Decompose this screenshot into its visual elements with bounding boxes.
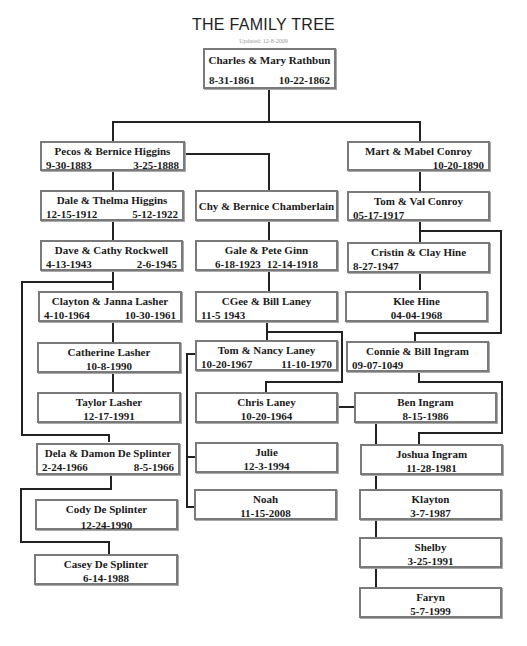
- person-box-chamberlain: Chy & Bernice Chamberlain: [195, 190, 338, 221]
- birth-date: 2-6-1945: [137, 257, 177, 271]
- person-name: Tom & Nancy Laney: [197, 343, 336, 357]
- connector: [21, 281, 114, 283]
- birth-date: 10-20-1967: [201, 357, 252, 371]
- connector: [108, 434, 110, 442]
- person-box-faryn: Faryn 5-7-1999: [359, 587, 502, 618]
- connector: [265, 381, 343, 383]
- connector: [419, 272, 421, 290]
- birth-date: 12-3-1994: [244, 459, 290, 473]
- birth-date: 05-17-1917: [353, 208, 404, 222]
- person-name: Chris Laney: [197, 395, 336, 409]
- person-box-rathbun: Charles & Mary Rathbun 8-31-1861 10-22-1…: [203, 48, 336, 89]
- birth-date: 6-14-1988: [83, 571, 129, 585]
- birth-date: 5-7-1999: [410, 604, 450, 618]
- person-name: Noah: [196, 492, 335, 506]
- connector: [21, 434, 110, 436]
- connector: [112, 121, 421, 123]
- birth-date: 8-5-1966: [134, 460, 174, 474]
- person-box-desplinter-casey: Casey De Splinter 6-14-1988: [34, 554, 178, 585]
- birth-date: 8-27-1947: [353, 259, 399, 273]
- connector: [112, 320, 114, 342]
- connector: [414, 332, 502, 334]
- birth-date: 10-8-1990: [86, 359, 132, 373]
- connector: [419, 230, 502, 232]
- person-box-laney-cgee: CGee & Bill Laney 11-5 1943: [195, 291, 338, 322]
- birth-date: 12-17-1991: [83, 409, 134, 423]
- connector: [108, 541, 110, 555]
- person-box-shelby: Shelby 3-25-1991: [359, 537, 502, 568]
- person-name: Dale & Thelma Higgins: [42, 193, 182, 207]
- person-name: Chy & Bernice Chamberlain: [197, 199, 336, 213]
- connector: [418, 432, 503, 434]
- connector: [20, 488, 22, 543]
- person-name: Joshua Ingram: [362, 447, 501, 461]
- person-box-klayton: Klayton 3-7-1987: [359, 489, 502, 520]
- connector: [501, 381, 503, 434]
- person-name: Taylor Lasher: [39, 395, 179, 409]
- birth-date: 8-31-1861: [209, 73, 255, 87]
- person-name: Tom & Val Conroy: [349, 194, 488, 208]
- birth-date: 6-18-1923: [215, 257, 261, 271]
- birth-date: 3-7-1987: [410, 506, 450, 520]
- connector: [112, 220, 114, 240]
- connector: [266, 331, 343, 333]
- person-name: Clayton & Janna Lasher: [40, 294, 180, 308]
- updated-date: Updated: 12-8-2009: [0, 38, 527, 44]
- page-title: THE FAMILY TREE: [0, 16, 527, 34]
- person-name: Faryn: [361, 590, 500, 604]
- person-name: Charles & Mary Rathbun: [205, 53, 334, 67]
- connector: [419, 121, 421, 142]
- person-box-laney-tom: Tom & Nancy Laney 10-20-1967 11-10-1970: [195, 340, 338, 371]
- connector: [184, 153, 270, 155]
- person-name: Klee Hine: [347, 294, 486, 308]
- person-name: Dave & Cathy Rockwell: [42, 243, 181, 257]
- connector: [419, 220, 421, 244]
- person-box-rockwell: Dave & Cathy Rockwell 4-13-1943 2-6-1945: [40, 240, 183, 271]
- connector: [20, 488, 112, 490]
- connector: [112, 371, 114, 393]
- birth-date: 8-15-1986: [403, 409, 449, 423]
- person-box-laney-chris: Chris Laney 10-20-1964: [195, 392, 338, 423]
- birth-date: 11-10-1970: [281, 357, 332, 371]
- birth-date: 3-25-1991: [408, 554, 454, 568]
- person-box-desplinter-dela: Dela & Damon De Splinter 2-24-1966 8-5-1…: [36, 443, 180, 475]
- birth-date: 12-15-1912: [46, 207, 97, 221]
- connector: [268, 220, 270, 240]
- person-box-ingram-joshua: Joshua Ingram 11-28-1981: [360, 444, 503, 475]
- person-name: Gale & Pete Ginn: [197, 243, 336, 257]
- person-box-higgins-dale: Dale & Thelma Higgins 12-15-1912 5-12-19…: [40, 190, 184, 221]
- birth-date: 10-20-1964: [241, 409, 292, 423]
- connector: [500, 230, 502, 334]
- connector: [112, 170, 114, 190]
- person-name: Pecos & Bernice Higgins: [42, 144, 183, 158]
- birth-date: 11-5 1943: [201, 308, 245, 322]
- birth-date: 10-20-1890: [433, 158, 484, 172]
- person-name: Cody De Splinter: [37, 502, 176, 516]
- person-box-ingram-connie: Connie & Bill Ingram 09-07-1049: [346, 341, 489, 372]
- person-box-julie: Julie 12-3-1994: [195, 442, 338, 473]
- person-name: Connie & Bill Ingram: [348, 344, 487, 358]
- person-box-hine-cristin: Cristin & Clay Hine 8-27-1947: [347, 242, 490, 273]
- connector: [419, 170, 421, 192]
- birth-date: 12-14-1918: [267, 257, 318, 271]
- birth-date: 3-25-1888: [133, 158, 179, 172]
- birth-date: 2-24-1966: [42, 460, 88, 474]
- connector: [112, 121, 114, 142]
- birth-date: 12-24-1990: [81, 518, 132, 532]
- birth-date: 4-13-1943: [46, 257, 92, 271]
- birth-date: 04-04-1968: [391, 308, 442, 322]
- person-box-ginn: Gale & Pete Ginn 6-18-1923 12-14-1918: [195, 240, 338, 271]
- birth-date: 9-30-1883: [46, 158, 92, 172]
- connector: [341, 331, 343, 383]
- connector: [268, 88, 270, 122]
- person-name: Ben Ingram: [356, 395, 495, 409]
- person-name: CGee & Bill Laney: [197, 294, 336, 308]
- person-name: Shelby: [361, 540, 500, 554]
- connector: [268, 153, 270, 190]
- person-name: Julie: [197, 445, 336, 459]
- connector: [21, 281, 23, 436]
- person-box-desplinter-cody: Cody De Splinter 12-24-1990: [35, 499, 178, 530]
- birth-date: 11-15-2008: [240, 506, 291, 520]
- connector: [20, 541, 110, 543]
- birth-date: 10-22-1862: [279, 73, 330, 87]
